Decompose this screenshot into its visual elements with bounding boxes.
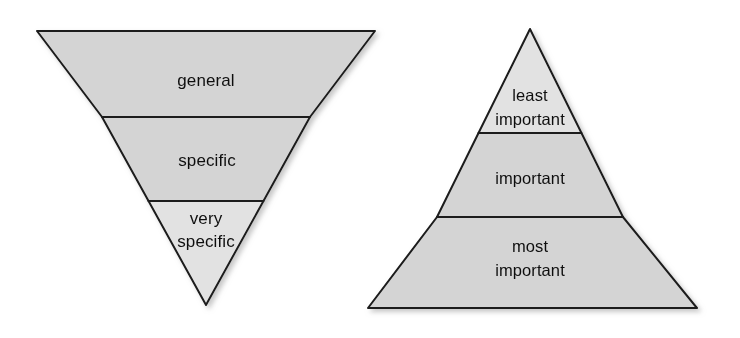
label-most-important: important [495, 261, 565, 279]
diagram-svg: general specific very specific least imp… [0, 0, 740, 338]
label-most: most [512, 237, 548, 255]
figure-canvas: general specific very specific least imp… [0, 0, 740, 338]
inverted-triangle-specificity: general specific very specific [37, 31, 375, 305]
label-specific: specific [178, 151, 236, 170]
label-least: least [512, 86, 548, 104]
label-very: very [190, 209, 223, 228]
label-very-specific: specific [177, 232, 235, 251]
label-general: general [177, 71, 234, 90]
pyramid-importance: least important important most important [368, 29, 697, 308]
label-least-important: important [495, 110, 565, 128]
label-important: important [495, 169, 565, 187]
